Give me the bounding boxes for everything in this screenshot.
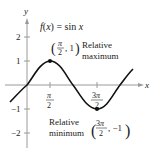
- y-axis-arrow-icon: [25, 18, 29, 24]
- svg-text:π: π: [47, 91, 52, 100]
- min-annotation: Relative minimum ( 3π 2 , −1 ): [49, 117, 130, 140]
- function-label: f(x) = sin x: [40, 21, 84, 33]
- ytick-1: 1: [16, 56, 21, 66]
- svg-text:, −1: , −1: [108, 123, 122, 133]
- x-axis-arrow-icon: [138, 83, 144, 87]
- svg-text:): ): [125, 122, 130, 140]
- ytick-neg1: −1: [11, 104, 21, 114]
- min-label-line1: Relative: [49, 117, 79, 127]
- max-annotation: ( π 2 , 1 ) Relative maximum: [51, 39, 119, 61]
- svg-text:f(x) = sin x: f(x) = sin x: [40, 21, 84, 33]
- max-point: [48, 59, 52, 63]
- max-label-line2: maximum: [82, 51, 119, 61]
- ytick-2: 2: [16, 32, 21, 42]
- xtick-pi-over-2: π 2: [46, 91, 54, 110]
- svg-text:2: 2: [58, 48, 62, 57]
- svg-text:π: π: [58, 39, 63, 48]
- svg-text:(: (: [51, 41, 56, 57]
- svg-text:): ): [75, 41, 80, 57]
- y-axis-label: y: [23, 6, 28, 16]
- svg-text:2: 2: [99, 129, 103, 138]
- max-label-line1: Relative: [82, 40, 112, 50]
- svg-text:3π: 3π: [96, 119, 105, 128]
- min-label-line2: minimum: [49, 128, 84, 138]
- svg-text:2: 2: [47, 101, 51, 110]
- sine-chart: y x 2 1 −1 −2 π 2 3π 2 f(x) = sin x ( π …: [0, 0, 153, 154]
- x-axis-label: x: [144, 80, 149, 90]
- ytick-neg2: −2: [11, 128, 21, 138]
- svg-text:3π: 3π: [92, 91, 101, 100]
- svg-text:, 1: , 1: [65, 43, 74, 53]
- min-point: [95, 107, 99, 111]
